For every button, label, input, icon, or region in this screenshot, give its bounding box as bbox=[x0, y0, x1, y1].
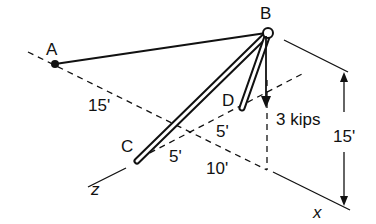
load-label-value: 3 kips bbox=[276, 110, 320, 129]
label-c: C bbox=[121, 137, 133, 156]
label-d: D bbox=[222, 91, 234, 110]
dim-c-d: 5' bbox=[169, 147, 182, 166]
label-b: B bbox=[260, 4, 271, 23]
label-a: A bbox=[46, 40, 58, 59]
dim-origin-x: 10' bbox=[206, 159, 228, 178]
joint-b bbox=[263, 28, 273, 38]
dim-a-origin: 15' bbox=[88, 96, 110, 115]
dim-height: 15' bbox=[333, 127, 355, 146]
axis-label-z: z bbox=[90, 180, 100, 199]
axis-label-x: x bbox=[312, 203, 322, 222]
top-reference-line bbox=[284, 40, 348, 72]
truss-diagram: A B C D 3 kips 15' 5' 5' 10' 15' z x bbox=[0, 0, 376, 224]
dashed-construction-lines bbox=[28, 52, 302, 170]
joint-a bbox=[51, 60, 59, 68]
x-axis-line bbox=[273, 172, 350, 210]
dim-d-origin: 5' bbox=[216, 122, 229, 141]
cable-ab bbox=[55, 33, 266, 64]
